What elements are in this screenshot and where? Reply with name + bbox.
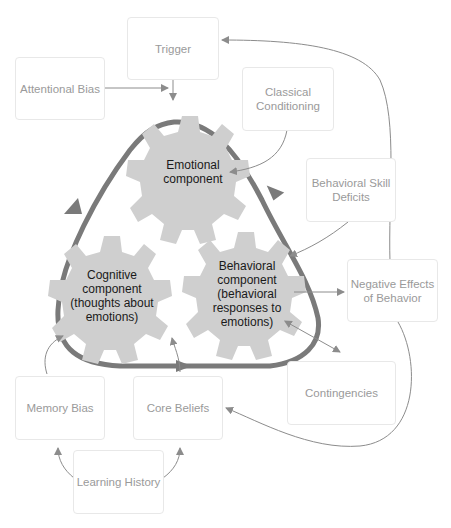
box-learning-history: Learning History	[73, 450, 164, 514]
box-classical-conditioning: Classical Conditioning	[242, 67, 334, 131]
box-behavioral-skill-deficits: Behavioral Skill Deficits	[306, 158, 396, 222]
box-negative-effects: Negative Effects of Behavior	[347, 259, 438, 322]
box-memory-bias: Memory Bias	[15, 376, 105, 440]
gear-cognitive: Cognitive component (thoughts about emot…	[62, 268, 162, 324]
box-trigger: Trigger	[127, 17, 219, 80]
box-core-beliefs: Core Beliefs	[133, 376, 223, 440]
gear-behavioral: Behavioral component (behavioral respons…	[206, 259, 288, 329]
box-attentional-bias: Attentional Bias	[15, 57, 105, 120]
gear-emotional: Emotional component	[160, 158, 226, 186]
box-contingencies: Contingencies	[287, 361, 396, 425]
